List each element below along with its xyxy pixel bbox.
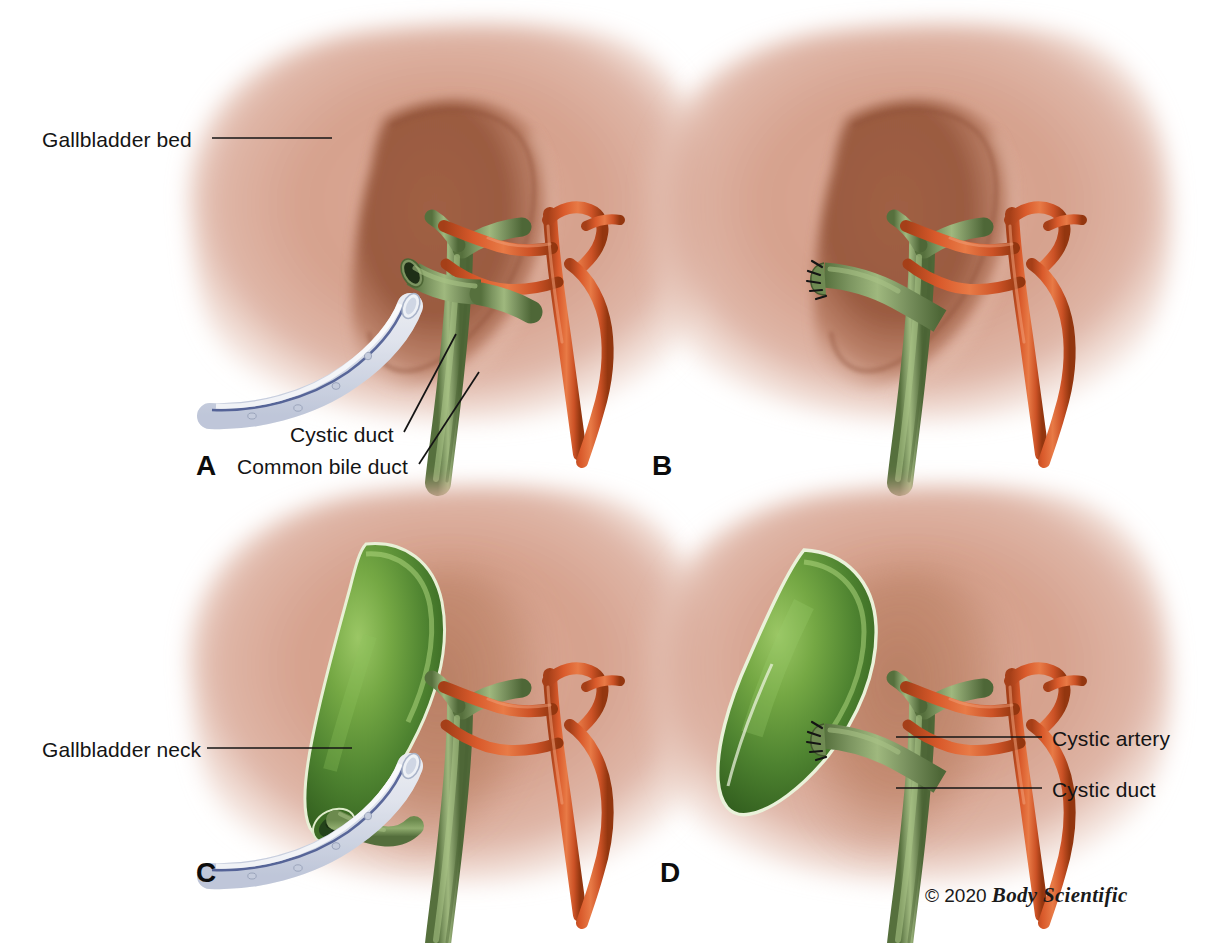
label-common-bile-duct-panel-a: Common bile duct xyxy=(237,455,408,479)
panel-a-artwork xyxy=(189,24,710,483)
panel-b-artwork xyxy=(651,24,1172,483)
panel-d-artwork xyxy=(651,486,1172,943)
label-cystic-artery-panel-d: Cystic artery xyxy=(1052,727,1170,751)
figure-canvas: Gallbladder bed Cystic duct Common bile … xyxy=(0,0,1206,943)
copyright-year: © 2020 xyxy=(925,885,987,906)
label-gallbladder-bed: Gallbladder bed xyxy=(42,128,192,152)
panel-c-artwork xyxy=(189,486,710,943)
panel-letter-c: C xyxy=(196,857,216,889)
label-cystic-duct-panel-a: Cystic duct xyxy=(290,423,394,447)
publisher-name: Body Scientific xyxy=(992,883,1128,907)
label-gallbladder-neck: Gallbladder neck xyxy=(42,738,201,762)
label-cystic-duct-panel-d: Cystic duct xyxy=(1052,778,1156,802)
copyright-credit: © 2020 Body Scientific xyxy=(925,883,1128,908)
panel-letter-a: A xyxy=(196,450,216,482)
panel-letter-b: B xyxy=(652,450,672,482)
panel-letter-d: D xyxy=(660,857,680,889)
